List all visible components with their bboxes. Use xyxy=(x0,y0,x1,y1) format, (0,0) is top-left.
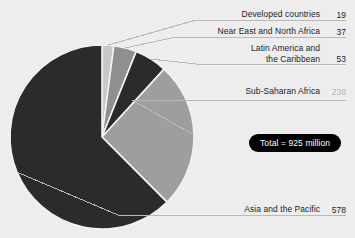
pie-chart: Developed countries 19 Near East and Nor… xyxy=(0,0,355,238)
callout-sub-saharan-africa: Sub-Saharan Africa 238 xyxy=(150,86,346,97)
callout-label: Near East and North Africa xyxy=(218,26,320,37)
callout-label: Sub-Saharan Africa xyxy=(245,86,320,97)
callout-latin-america-and-the-caribbean: Latin America and the Caribbean 53 xyxy=(150,43,346,64)
callout-label: Latin America and the Caribbean xyxy=(251,43,320,64)
callout-value: 53 xyxy=(320,54,346,64)
callout-value: 578 xyxy=(320,205,346,215)
callout-value: 37 xyxy=(320,27,346,37)
callout-value: 238 xyxy=(320,87,346,97)
callout-near-east-and-north-africa: Near East and North Africa 37 xyxy=(150,26,346,37)
callout-developed-countries: Developed countries 19 xyxy=(150,9,346,20)
callout-label: Asia and the Pacific xyxy=(244,204,320,215)
callout-asia-and-the-pacific: Asia and the Pacific 578 xyxy=(150,204,346,215)
total-badge: Total = 925 million xyxy=(249,134,341,152)
callout-label: Developed countries xyxy=(242,9,320,20)
pie-slices xyxy=(10,45,194,229)
callout-value: 19 xyxy=(320,10,346,20)
